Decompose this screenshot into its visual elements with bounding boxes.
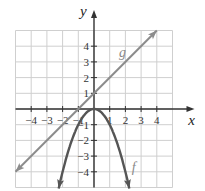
f-label: f <box>132 160 138 175</box>
svg-text:3: 3 <box>138 114 144 126</box>
function-graph: −4−3−2−112344321−1−2−3−4 x y g f <box>0 0 205 191</box>
axes <box>16 10 195 187</box>
svg-text:−4: −4 <box>77 166 89 178</box>
svg-text:2: 2 <box>123 114 129 126</box>
svg-text:3: 3 <box>84 56 90 68</box>
x-axis-label: x <box>187 112 195 128</box>
svg-text:−2: −2 <box>77 134 89 146</box>
svg-text:4: 4 <box>154 114 160 126</box>
svg-text:−3: −3 <box>41 114 53 126</box>
svg-text:−3: −3 <box>77 150 89 162</box>
svg-text:1: 1 <box>84 87 90 99</box>
y-axis-label: y <box>78 3 87 19</box>
svg-text:−4: −4 <box>25 114 37 126</box>
svg-text:4: 4 <box>84 40 90 52</box>
g-label: g <box>119 45 126 60</box>
svg-text:2: 2 <box>84 72 90 84</box>
